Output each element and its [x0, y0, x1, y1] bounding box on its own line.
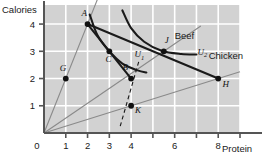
data-point-B — [128, 76, 134, 82]
x-axis-title: Protein — [222, 143, 252, 154]
x-tick-label: 4 — [128, 140, 133, 151]
x-tick-label: 3 — [107, 140, 112, 151]
y-axis-title: Calories — [2, 4, 37, 15]
data-point-K — [128, 103, 134, 109]
data-point-A — [85, 21, 91, 27]
x-tick-label: 2 — [85, 140, 90, 151]
chart-svg: 01234681234 AGCBJHK PorkBeefChicken U1U2… — [0, 0, 267, 156]
y-tick-label: 3 — [30, 46, 35, 57]
ray-label-beef: Beef — [175, 30, 195, 41]
point-label-A: A — [80, 8, 87, 18]
indifference-curve-figure: 01234681234 AGCBJHK PorkBeefChicken U1U2… — [0, 0, 267, 156]
point-label-C: C — [105, 54, 112, 64]
data-point-H — [215, 76, 221, 82]
point-label-B: B — [122, 62, 128, 72]
x-tick-label: 6 — [172, 140, 177, 151]
point-label-K: K — [134, 105, 142, 115]
y-tick-label: 1 — [30, 100, 35, 111]
y-tick-label: 4 — [30, 19, 35, 30]
x-tick-label: 1 — [63, 140, 68, 151]
data-point-G — [63, 76, 69, 82]
point-label-H: H — [222, 79, 230, 89]
x-tick-label: 8 — [216, 140, 221, 151]
y-tick-label: 2 — [30, 73, 35, 84]
data-point-J — [161, 48, 167, 54]
x-tick-label: 0 — [34, 140, 39, 151]
ray-label-chicken: Chicken — [209, 50, 243, 61]
point-label-G: G — [60, 63, 67, 73]
